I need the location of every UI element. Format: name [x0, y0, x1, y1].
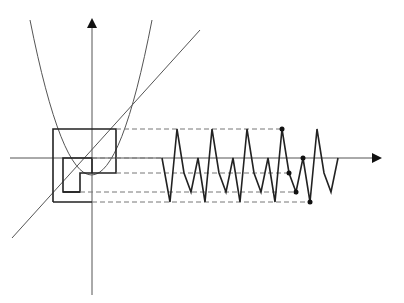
vertical-axis-arrow-icon [87, 18, 97, 28]
diagonal-line [12, 30, 200, 238]
time-series-line [162, 129, 338, 202]
cobweb-diagram [0, 0, 404, 303]
time-series-markers [280, 127, 313, 205]
series-point-marker [294, 190, 299, 195]
series-point-marker [308, 200, 313, 205]
series-point-marker [287, 171, 292, 176]
parabola-curve [30, 20, 152, 175]
series-point-marker [301, 156, 306, 161]
series-point-marker [280, 127, 285, 132]
horizontal-axis-arrow-icon [372, 153, 382, 163]
